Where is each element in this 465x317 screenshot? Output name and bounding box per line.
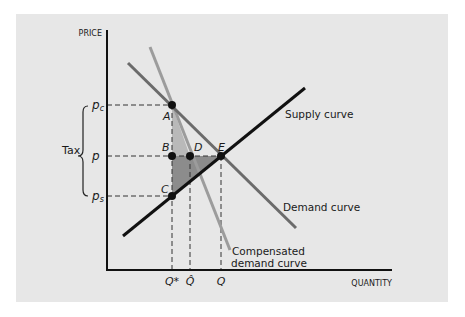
quantity-label-q: Q — [217, 275, 226, 288]
demand-curve-label: Demand curve — [283, 201, 360, 213]
point-label-b: B — [162, 141, 170, 154]
point-label-e: E — [218, 141, 225, 154]
tax-label: Tax — [61, 144, 81, 157]
x-axis-label: QUANTITY — [351, 279, 392, 288]
price-label-ps: ps — [91, 189, 104, 204]
point-label-c: C — [161, 183, 169, 196]
tax-deadweight-diagram: PRICE QUANTITY pc p ps Tax A B D E C Q* … — [0, 0, 465, 317]
point-label-d: D — [194, 141, 202, 154]
compensated-curve-label-line1: Compensated — [232, 245, 305, 257]
quantity-label-qstar: Q* — [165, 275, 180, 288]
quantity-label-qhat: Q̂ — [186, 275, 195, 288]
compensated-curve-label-line2: demand curve — [231, 257, 307, 269]
point-a — [168, 101, 176, 109]
point-label-a: A — [162, 110, 171, 123]
point-d — [186, 152, 194, 160]
supply-curve-label: Supply curve — [285, 108, 354, 120]
point-c — [168, 192, 176, 200]
price-label-pc: pc — [91, 98, 105, 113]
price-label-p: p — [91, 149, 100, 163]
supply-curve — [123, 88, 305, 236]
y-axis-label: PRICE — [79, 29, 102, 38]
